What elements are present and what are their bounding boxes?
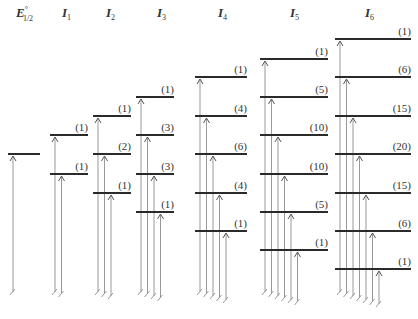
multiplicity-label: (15) bbox=[393, 102, 412, 115]
multiplicity-label: (5) bbox=[315, 83, 328, 96]
multiplicity-label: (1) bbox=[398, 255, 411, 268]
multiplicity-label: (1) bbox=[161, 198, 174, 211]
multiplicity-label: (6) bbox=[398, 63, 411, 76]
column-i5: I5(1)(5)(10)(10)(5)(1) bbox=[260, 5, 328, 305]
multiplicity-label: (4) bbox=[234, 179, 247, 192]
column-header: I4 bbox=[217, 5, 227, 22]
multiplicity-label: (10) bbox=[310, 160, 329, 173]
multiplicity-label: (15) bbox=[393, 179, 412, 192]
multiplicity-label: (3) bbox=[161, 121, 174, 134]
multiplicity-label: (1) bbox=[234, 63, 247, 76]
multiplicity-label: (10) bbox=[310, 121, 329, 134]
multiplicity-label: (20) bbox=[393, 140, 412, 153]
multiplicity-label: (2) bbox=[118, 140, 131, 153]
column-i3: I3(1)(3)(3)(1) bbox=[136, 5, 174, 301]
multiplicity-label: (1) bbox=[75, 160, 88, 173]
column-i1: I1(1)(1) bbox=[50, 5, 88, 297]
column-header: E°1/2 bbox=[15, 5, 33, 23]
column-header: I6 bbox=[364, 5, 374, 22]
column-header: I3 bbox=[156, 5, 166, 22]
column-header: I5 bbox=[289, 5, 299, 22]
multiplicity-label: (1) bbox=[315, 45, 328, 58]
multiplicity-label: (4) bbox=[234, 102, 247, 115]
column-i2: I2(1)(2)(1) bbox=[93, 5, 131, 299]
column-i6: I6(1)(6)(15)(20)(15)(6)(1) bbox=[335, 5, 411, 307]
multiplicity-label: (6) bbox=[398, 217, 411, 230]
column-header: I1 bbox=[61, 5, 71, 22]
multiplicity-label: (1) bbox=[75, 121, 88, 134]
multiplicity-label: (1) bbox=[161, 83, 174, 96]
multiplicity-label: (1) bbox=[118, 179, 131, 192]
multiplicity-label: (1) bbox=[315, 236, 328, 249]
multiplicity-label: (1) bbox=[118, 102, 131, 115]
multiplicity-label: (1) bbox=[398, 25, 411, 38]
multiplicity-label: (5) bbox=[315, 198, 328, 211]
energy-level-diagram: E°1/2I1(1)(1)I2(1)(2)(1)I3(1)(3)(3)(1)I4… bbox=[0, 0, 418, 319]
column-header: I2 bbox=[105, 5, 115, 22]
multiplicity-label: (1) bbox=[234, 217, 247, 230]
column-e-half: E°1/2 bbox=[8, 5, 40, 295]
multiplicity-label: (3) bbox=[161, 160, 174, 173]
multiplicity-label: (6) bbox=[234, 140, 247, 153]
column-i4: I4(1)(4)(6)(4)(1) bbox=[195, 5, 247, 303]
